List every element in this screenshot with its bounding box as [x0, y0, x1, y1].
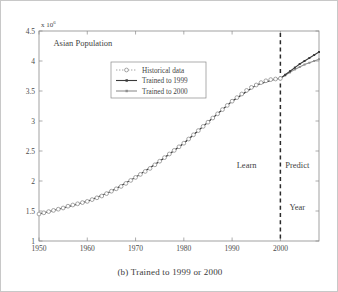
y-tick-label: 4.5: [26, 27, 36, 36]
series-marker-historical-data: [274, 77, 278, 81]
chart-annotation: Predict: [285, 160, 310, 170]
x-tick-label: 1960: [80, 244, 95, 253]
series-marker-historical-data: [110, 189, 114, 193]
y-tick-label: 2: [31, 177, 35, 186]
series-marker-historical-data: [81, 201, 85, 205]
series-marker-historical-data: [264, 79, 268, 83]
series-marker-historical-data: [37, 212, 41, 216]
series-marker-historical-data: [105, 192, 109, 196]
series-marker-historical-data: [192, 133, 196, 137]
series-marker-historical-data: [114, 187, 118, 191]
series-marker-historical-data: [56, 207, 60, 211]
series-marker-historical-data: [269, 78, 273, 82]
series-marker-trained-to-1999: [294, 67, 296, 69]
series-marker-trained-to-2000: [308, 62, 310, 64]
series-marker-historical-data: [47, 210, 51, 214]
series-marker-historical-data: [221, 108, 225, 112]
series-marker-historical-data: [177, 145, 181, 149]
legend-label: Trained to 1999: [142, 77, 188, 85]
legend-marker-trained-to-2000: [126, 90, 128, 92]
y-tick-label: 4: [31, 57, 35, 66]
series-marker-historical-data: [245, 89, 249, 93]
series-marker-trained-to-1999: [284, 74, 286, 76]
series-marker-historical-data: [230, 99, 234, 103]
y-tick-label: 3.5: [26, 87, 36, 96]
y-tick-label: 3: [31, 117, 35, 126]
series-marker-historical-data: [172, 149, 176, 153]
series-marker-historical-data: [61, 206, 65, 210]
y-tick-label: 1.5: [26, 207, 36, 216]
series-marker-historical-data: [254, 83, 258, 87]
series-marker-trained-to-1999: [289, 70, 291, 72]
series-marker-historical-data: [138, 173, 142, 177]
series-marker-historical-data: [153, 163, 157, 167]
x-tick-label: 1980: [176, 244, 191, 253]
x-tick-label: 1970: [128, 244, 143, 253]
series-marker-historical-data: [71, 203, 75, 207]
series-marker-historical-data: [143, 170, 147, 174]
figure-panel: 19501960197019801990200011.522.533.544.5…: [0, 0, 338, 292]
series-marker-historical-data: [76, 202, 80, 206]
series-marker-historical-data: [187, 137, 191, 141]
series-marker-historical-data: [250, 86, 254, 90]
series-marker-trained-to-1999: [299, 63, 301, 65]
series-marker-trained-to-1999: [313, 54, 315, 56]
series-marker-historical-data: [182, 141, 186, 145]
chart-annotation: Learn: [237, 160, 258, 170]
series-marker-historical-data: [85, 200, 89, 204]
series-marker-trained-to-2000: [318, 58, 320, 60]
legend-marker-historical-data: [125, 68, 129, 72]
y-tick-label: 2.5: [26, 147, 36, 156]
series-marker-historical-data: [235, 96, 239, 100]
series-marker-historical-data: [259, 81, 263, 85]
series-marker-historical-data: [278, 77, 282, 81]
series-marker-trained-to-1999: [318, 51, 320, 53]
series-marker-historical-data: [52, 209, 56, 213]
series-marker-historical-data: [201, 125, 205, 129]
series-marker-historical-data: [129, 179, 133, 183]
series-marker-historical-data: [100, 194, 104, 198]
series-marker-historical-data: [211, 116, 215, 120]
series-marker-trained-to-2000: [313, 60, 315, 62]
series-marker-historical-data: [225, 104, 229, 108]
series-marker-historical-data: [196, 129, 200, 133]
y-axis-exponent: x 106: [41, 20, 56, 29]
series-marker-historical-data: [90, 198, 94, 202]
series-marker-historical-data: [95, 196, 99, 200]
series-marker-historical-data: [206, 120, 210, 124]
series-marker-trained-to-1999: [304, 60, 306, 62]
series-marker-trained-to-2000: [304, 64, 306, 66]
series-marker-historical-data: [163, 156, 167, 160]
series-marker-historical-data: [148, 167, 152, 171]
series-marker-trained-to-2000: [299, 66, 301, 68]
series-marker-historical-data: [134, 176, 138, 180]
series-marker-historical-data: [158, 159, 162, 163]
series-marker-historical-data: [66, 204, 70, 208]
figure-caption: (b) Trained to 1999 or 2000: [1, 267, 338, 277]
series-marker-historical-data: [119, 185, 123, 189]
series-marker-historical-data: [124, 182, 128, 186]
legend-label: Trained to 2000: [142, 88, 188, 96]
x-tick-label: 1990: [225, 244, 240, 253]
series-marker-historical-data: [240, 92, 244, 96]
series-marker-historical-data: [216, 112, 220, 116]
chart-annotation: Year: [289, 202, 305, 212]
chart-canvas: 19501960197019801990200011.522.533.544.5…: [1, 1, 338, 292]
chart-title-annotation: Asian Population: [53, 38, 113, 48]
series-marker-trained-to-1999: [308, 57, 310, 59]
legend-label: Historical data: [142, 67, 185, 75]
series-marker-historical-data: [42, 211, 46, 215]
series-marker-historical-data: [167, 152, 171, 156]
x-tick-label: 2000: [273, 244, 288, 253]
legend-marker-trained-to-1999: [126, 79, 128, 81]
y-tick-label: 1: [31, 237, 35, 246]
